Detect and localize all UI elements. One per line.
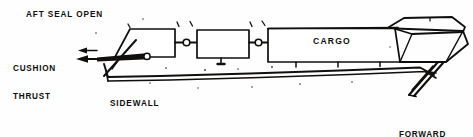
coupling-connector-aft: [175, 39, 197, 46]
mid-module: [197, 30, 249, 64]
coupling-connector-forward: [249, 39, 268, 46]
module-tick-marks: [128, 21, 265, 28]
bow-prow: [389, 17, 468, 62]
label-cushion-thrust: CUSHION THRUST: [13, 46, 56, 120]
cargo-module: [268, 28, 400, 68]
label-forward-seal: FORWARD SEAL: [399, 112, 446, 137]
label-aft-seal-open: AFT SEAL OPEN: [26, 10, 103, 19]
label-forward-seal-line1: FORWARD: [399, 130, 446, 137]
aft-seal-pivot: [144, 53, 150, 59]
label-cargo: CARGO: [313, 37, 351, 47]
ses-profile-figure: AFT SEAL OPEN CUSHION THRUST SIDEWALL CA…: [0, 0, 473, 137]
label-sidewall: SIDEWALL: [110, 99, 160, 108]
label-cushion-thrust-line1: CUSHION: [13, 64, 56, 73]
sidewall-hull: [104, 64, 436, 81]
label-cushion-thrust-line2: THRUST: [13, 92, 56, 101]
aft-seal-module: [97, 29, 175, 76]
